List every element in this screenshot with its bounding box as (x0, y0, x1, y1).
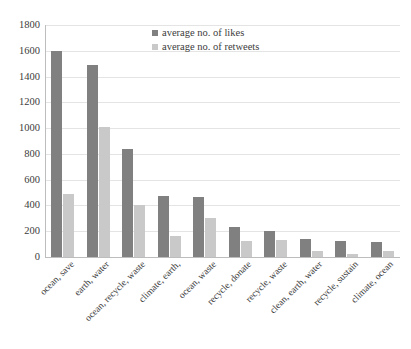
bar-likes (371, 242, 382, 257)
plot-area (45, 25, 400, 257)
y-tick-label-400: 400 (0, 200, 40, 210)
bar-retweets (99, 127, 110, 257)
legend-swatch-retweets-icon (152, 44, 158, 50)
bar-retweets (241, 241, 252, 257)
bar-likes (87, 65, 98, 257)
y-tick-label-1400: 1400 (0, 72, 40, 82)
y-tick-label-1800: 1800 (0, 20, 40, 30)
bar-likes (193, 197, 204, 257)
bar-retweets (170, 236, 181, 257)
bar-group (294, 25, 330, 257)
bar-retweets (63, 194, 74, 257)
y-tick-label-1600: 1600 (0, 46, 40, 56)
bar-likes (51, 51, 62, 257)
legend-swatch-likes-icon (152, 30, 158, 36)
bar-likes (335, 241, 346, 257)
legend-label-retweets: average no. of retweets (162, 41, 259, 53)
bar-group (329, 25, 365, 257)
bar-likes (229, 227, 240, 257)
gridline-0 (45, 257, 400, 258)
x-tick-label: ocean, save (38, 259, 77, 298)
y-tick-label-800: 800 (0, 149, 40, 159)
legend-item-likes: average no. of likes (152, 27, 259, 39)
bar-group (81, 25, 117, 257)
y-tick-label-600: 600 (0, 175, 40, 185)
y-axis-line (45, 25, 46, 258)
bar-group (45, 25, 81, 257)
bar-group (187, 25, 223, 257)
legend-label-likes: average no. of likes (162, 27, 244, 39)
bar-group (258, 25, 294, 257)
bar-likes (300, 239, 311, 257)
x-axis-tick-labels: ocean, saveearth, waterocean, recycle, w… (45, 259, 400, 349)
bar-likes (264, 231, 275, 257)
bar-retweets (347, 254, 358, 257)
bar-retweets (312, 251, 323, 257)
y-tick-label-0: 0 (0, 252, 40, 262)
bar-retweets (205, 218, 216, 257)
bar-group (365, 25, 401, 257)
bar-group (223, 25, 259, 257)
legend-item-retweets: average no. of retweets (152, 41, 259, 53)
bar-chart: 180016001400120010008006004002000 averag… (0, 0, 411, 349)
y-tick-label-200: 200 (0, 226, 40, 236)
bar-likes (158, 196, 169, 257)
bar-series-container (45, 25, 400, 257)
bar-likes (122, 149, 133, 257)
y-axis-tick-labels: 180016001400120010008006004002000 (0, 25, 40, 257)
bar-group (152, 25, 188, 257)
bar-retweets (276, 240, 287, 257)
chart-legend: average no. of likes average no. of retw… (152, 27, 259, 53)
bar-group (116, 25, 152, 257)
bar-retweets (134, 205, 145, 257)
bar-retweets (383, 251, 394, 257)
y-tick-label-1200: 1200 (0, 97, 40, 107)
y-tick-label-1000: 1000 (0, 123, 40, 133)
